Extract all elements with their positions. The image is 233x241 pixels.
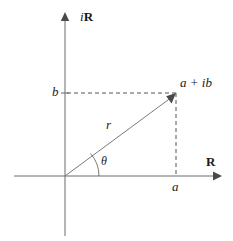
point-label: a + ib: [180, 76, 212, 89]
imaginary-axis-arrowhead: [61, 12, 69, 21]
diagram-canvas: [0, 0, 233, 241]
b-axis-label: b: [52, 85, 59, 98]
argand-diagram: iR R a + ib b a r θ: [0, 0, 233, 241]
imaginary-axis-label: iR: [80, 10, 93, 23]
radius-vector-arrowhead: [166, 93, 176, 104]
imaginary-axis-label-r: R: [84, 9, 93, 24]
angle-arc: [91, 154, 100, 177]
angle-label: θ: [101, 155, 107, 167]
radius-vector-line: [65, 99, 170, 177]
a-axis-label: a: [172, 180, 179, 193]
real-axis-label: R: [206, 155, 215, 168]
real-axis-arrowhead: [213, 172, 222, 181]
radius-label: r: [106, 118, 111, 131]
